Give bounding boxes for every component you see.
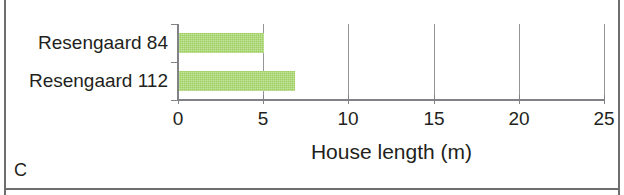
category-label: Resengaard 112: [0, 70, 168, 92]
x-tick-20: [519, 95, 520, 104]
figure-panel-c: 0510152025 Resengaard 84Resengaard 112 H…: [0, 0, 624, 195]
x-tick-label-15: 15: [423, 108, 444, 130]
x-axis-title: House length (m): [178, 140, 605, 164]
frame-left-rule: [4, 0, 6, 195]
x-tick-label-10: 10: [337, 108, 358, 130]
bar: [179, 71, 295, 91]
y-tick: [171, 24, 178, 25]
x-tick-label-25: 25: [593, 108, 614, 130]
frame-bottom-rule: [4, 188, 620, 190]
x-tick-25: [604, 95, 605, 104]
x-axis-line: [178, 99, 605, 101]
y-tick: [171, 62, 178, 63]
x-tick-label-0: 0: [173, 108, 184, 130]
panel-letter: C: [14, 160, 27, 180]
y-tick: [171, 100, 178, 101]
frame-right-rule: [618, 0, 620, 195]
x-tick-label-5: 5: [258, 108, 269, 130]
gridline-x-10: [348, 24, 349, 100]
x-tick-15: [434, 95, 435, 104]
gridline-x-25: [604, 24, 605, 100]
x-tick-0: [178, 95, 179, 104]
x-tick-5: [263, 95, 264, 104]
x-tick-10: [348, 95, 349, 104]
x-tick-label-20: 20: [508, 108, 529, 130]
gridline-x-20: [519, 24, 520, 100]
gridline-x-15: [434, 24, 435, 100]
category-label: Resengaard 84: [0, 32, 168, 54]
bar: [179, 33, 264, 53]
